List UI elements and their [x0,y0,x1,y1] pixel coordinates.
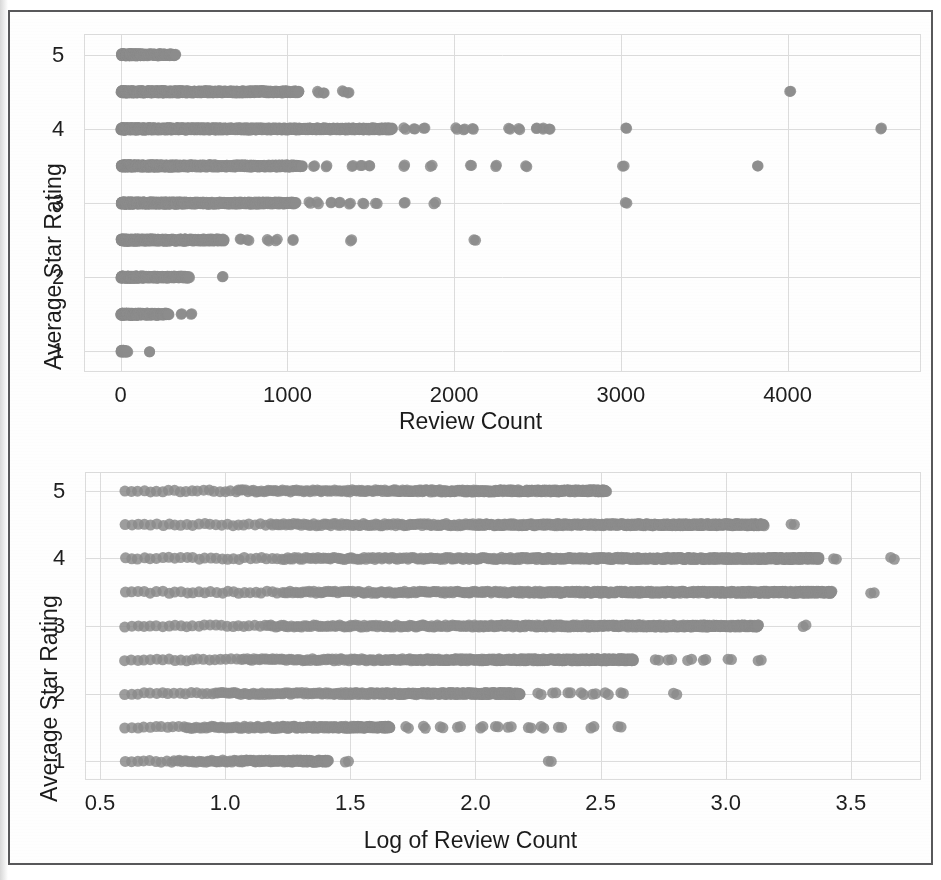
y-axis-title-top: Average Star Rating [40,163,67,370]
scatter-panel-log-review-count: 12345 0.51.01.52.02.53.03.5 Average Star… [10,437,931,865]
x-tick-label: 1.0 [210,790,241,816]
x-tick-label: 4000 [763,382,812,408]
x-tick-label: 1000 [263,382,312,408]
y-tick-label: 5 [52,42,64,68]
y-axis-title-bottom: Average Star Rating [36,595,63,802]
x-tick-label: 1.5 [335,790,366,816]
x-tick-label: 2.5 [585,790,616,816]
x-tick-label: 3.0 [710,790,741,816]
figure-frame: 12345 01000200030004000 Average Star Rat… [8,10,933,865]
y-tick-label: 4 [53,545,65,571]
x-tick-label: 0 [115,382,127,408]
y-tick-label: 5 [53,478,65,504]
x-axis-title-bottom: Log of Review Count [10,827,931,854]
x-tick-label: 3.5 [836,790,867,816]
y-tick-label: 4 [52,116,64,142]
x-tick-label: 3000 [596,382,645,408]
scatter-panel-review-count: 12345 01000200030004000 Average Star Rat… [10,12,931,437]
x-tick-label: 2.0 [460,790,491,816]
x-tick-label: 2000 [430,382,479,408]
scatter-plot-review-count [10,12,931,437]
scan-edge-shadow [0,0,8,880]
x-axis-title-top: Review Count [10,408,931,435]
x-tick-label: 0.5 [85,790,116,816]
